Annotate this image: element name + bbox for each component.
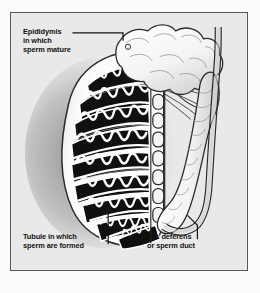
label-vas-deferens: Vas deferens or sperm duct — [147, 232, 195, 250]
label-epididymis: Epididymis in which sperm mature — [23, 27, 71, 55]
figure-frame: Epididymis in which sperm mature Tubule … — [10, 12, 248, 271]
label-tubule: Tubule in which sperm are formed — [23, 232, 84, 250]
